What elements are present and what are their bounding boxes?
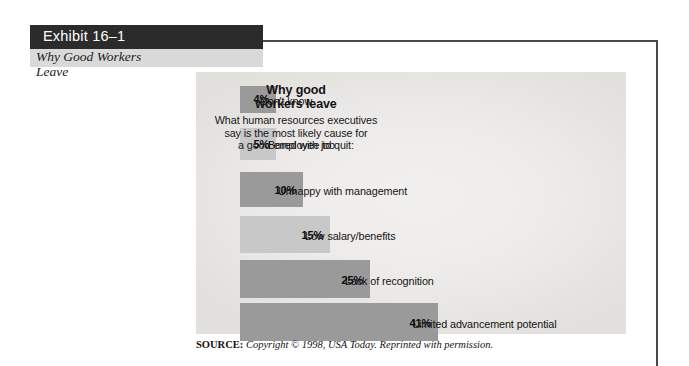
chart-subtitle: What human resources executives say is t…: [198, 114, 394, 152]
exhibit-subtitle-line-2: Leave: [36, 65, 256, 80]
chart-subtitle-line-1: What human resources executives: [198, 114, 394, 127]
source-note: SOURCE: Copyright © 1998, USA Today. Rep…: [196, 339, 493, 350]
bar-row: 41%Limited advancement potential: [196, 303, 626, 341]
bar: 41%: [240, 303, 438, 341]
frame-top-rule: [263, 40, 658, 42]
chart-title: Why good workers leave: [198, 84, 394, 111]
source-key: SOURCE:: [196, 339, 243, 350]
bar-category-label: Limited advancement potential: [413, 318, 557, 330]
exhibit-number-label: Exhibit 16–1: [43, 28, 125, 44]
chart-title-line-2: workers leave: [198, 98, 394, 112]
exhibit-subtitle-line-1: Why Good Workers: [36, 50, 256, 65]
exhibit-header-bar: Exhibit 16–1: [30, 25, 263, 49]
chart-headline-block: Why good workers leave What human resour…: [198, 84, 394, 152]
bar-category-label: Lack of recognition: [345, 275, 434, 287]
exhibit-subtitle: Why Good Workers Leave: [36, 50, 256, 79]
bar-category-label: Unhappy with management: [278, 185, 407, 197]
bar-row: 25%Lack of recognition: [196, 260, 626, 298]
chart-subtitle-line-2: say is the most likely cause for: [198, 127, 394, 140]
chart-subtitle-line-3: a good employee to quit:: [198, 139, 394, 152]
chart-title-line-1: Why good: [198, 84, 394, 98]
frame-right-rule: [656, 40, 658, 366]
bar-row: 10%Unhappy with management: [196, 172, 626, 207]
bar-row: 15%Low salary/benefits: [196, 216, 626, 253]
source-body: Copyright © 1998, USA Today. Reprinted w…: [246, 339, 493, 350]
bar-category-label: Low salary/benefits: [305, 230, 396, 242]
